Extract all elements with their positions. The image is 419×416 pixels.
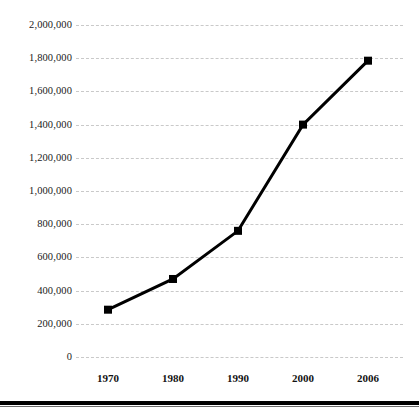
line-chart-figure: 0200,000400,000600,000800,0001,000,0001,… [0, 0, 419, 416]
series-line [108, 61, 368, 310]
data-point-marker [364, 57, 372, 65]
data-point-marker [169, 275, 177, 283]
data-series [76, 25, 403, 357]
data-point-marker [234, 227, 242, 235]
data-point-marker [104, 306, 112, 314]
x-tick-label: 1980 [143, 372, 203, 385]
y-tick-label: 1,000,000 [2, 186, 72, 197]
x-tick-label: 1990 [208, 372, 268, 385]
bottom-rule [0, 401, 419, 405]
gridline [76, 357, 403, 358]
x-tick-label: 1970 [78, 372, 138, 385]
y-tick-label: 1,200,000 [2, 153, 72, 164]
y-axis-tick-labels: 0200,000400,000600,000800,0001,000,0001,… [0, 25, 72, 357]
y-tick-label: 2,000,000 [2, 20, 72, 31]
bottom-rule-secondary [0, 406, 419, 407]
x-tick-label: 2000 [273, 372, 333, 385]
y-tick-label: 400,000 [2, 286, 72, 297]
plot-area [76, 25, 403, 357]
data-point-marker [299, 121, 307, 129]
y-tick-label: 600,000 [2, 252, 72, 263]
x-tick-label: 2006 [338, 372, 398, 385]
y-tick-label: 1,400,000 [2, 120, 72, 131]
x-axis-tick-labels: 19701980199020002006 [76, 372, 403, 392]
y-tick-label: 800,000 [2, 219, 72, 230]
y-tick-label: 0 [2, 352, 72, 363]
y-tick-label: 200,000 [2, 319, 72, 330]
y-tick-label: 1,600,000 [2, 86, 72, 97]
y-tick-label: 1,800,000 [2, 53, 72, 64]
